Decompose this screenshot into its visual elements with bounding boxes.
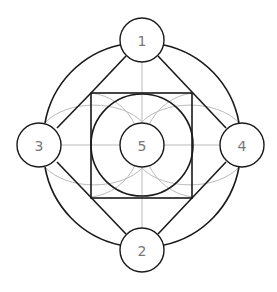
node-1: 1 [120, 18, 164, 62]
node-5-label: 5 [138, 138, 147, 154]
node-3: 3 [17, 123, 61, 167]
node-4-label: 4 [238, 138, 247, 154]
node-2-label: 2 [138, 243, 147, 259]
node-5: 5 [120, 123, 164, 167]
node-2: 2 [120, 228, 164, 272]
node-4: 4 [220, 123, 264, 167]
node-3-label: 3 [35, 138, 44, 154]
node-1-label: 1 [138, 33, 147, 49]
node-diagram: 1 2 3 4 5 [0, 0, 277, 292]
